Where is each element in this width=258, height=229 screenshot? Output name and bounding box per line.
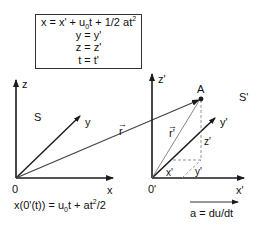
s-prime-origin-label: 0' — [148, 184, 156, 195]
equation-x: x = x' + u0t + 1/2 at2 — [36, 16, 141, 29]
s-prime-z-label: z' — [158, 74, 166, 85]
vector-r-label: r→ — [119, 126, 123, 137]
acceleration-label: a = du/dt — [190, 208, 233, 219]
s-y-label: y — [85, 117, 91, 128]
frame-s-prime-name: S' — [239, 92, 248, 103]
equation-z: z = z' — [36, 41, 141, 54]
transformation-equations-box: x = x' + u0t + 1/2 at2 y = y' z = z' t =… — [35, 14, 142, 69]
point-a-marker — [199, 97, 204, 102]
component-x-label: x' — [166, 167, 173, 178]
origin-motion-equation: x(0'(t)) = u0t + at2/2 — [14, 200, 106, 211]
s-prime-y-label: y' — [220, 117, 228, 128]
equation-y: y = y' — [36, 29, 141, 42]
point-a-label: A — [197, 84, 204, 95]
component-y-label: y' — [195, 166, 202, 177]
component-z-label: z' — [204, 136, 211, 147]
frame-s-name: S — [34, 112, 41, 123]
vector-r-prime-label: r'→ — [169, 128, 175, 139]
s-z-label: z — [22, 79, 28, 90]
s-x-label: x — [107, 185, 113, 196]
s-y-axis — [16, 116, 80, 178]
s-prime-x-label: x' — [236, 185, 244, 196]
frame-s-axes — [16, 80, 113, 178]
galilean-transformation-diagram: x = x' + u0t + 1/2 at2 y = y' z = z' t =… — [0, 0, 258, 229]
s-origin-label: 0 — [12, 184, 18, 195]
equation-t: t = t' — [36, 54, 141, 67]
